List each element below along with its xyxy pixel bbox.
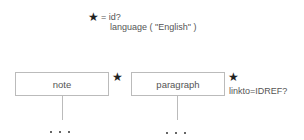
ellipsis-dot — [166, 132, 168, 134]
note-label: note — [53, 79, 72, 90]
star-icon: ★ — [112, 71, 123, 83]
note-box: note — [15, 72, 109, 96]
ellipsis-dot — [59, 131, 61, 133]
ellipsis-dot — [184, 132, 186, 134]
paragraph-connector-line — [177, 96, 178, 120]
note-connector-line — [62, 96, 63, 120]
legend-language-text: language ( "English" ) — [110, 22, 196, 32]
star-icon: ★ — [228, 71, 239, 83]
ellipsis-dot — [50, 131, 52, 133]
legend-id-text: = id? — [101, 12, 121, 22]
ellipsis-dot — [68, 131, 70, 133]
paragraph-linkto-attribute: linkto=IDREF? — [229, 86, 287, 96]
paragraph-label: paragraph — [156, 79, 199, 90]
ellipsis-dot — [175, 132, 177, 134]
paragraph-box: paragraph — [131, 72, 225, 96]
star-icon: ★ — [88, 11, 99, 23]
